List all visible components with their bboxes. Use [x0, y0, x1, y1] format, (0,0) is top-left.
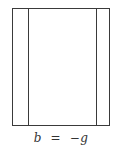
caption-lhs: b [34, 131, 42, 145]
caption-equals: = [42, 131, 70, 145]
equation-caption: b = −g [0, 131, 119, 145]
caption-rhs: g [80, 131, 88, 145]
left-divider-line [28, 8, 29, 126]
caption-minus: − [70, 131, 81, 145]
right-divider-line [96, 8, 97, 126]
